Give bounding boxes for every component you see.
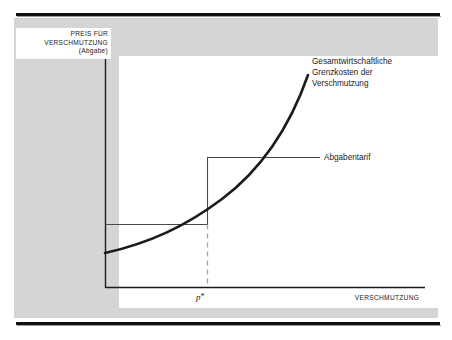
figure-page: PREIS FÜR VERSCHMUTZUNG (Abgabe) VERSCHM… — [0, 0, 452, 340]
y-axis-label-line-2: VERSCHMUTZUNG — [20, 39, 108, 48]
curve-annotation-line-1: Gesamtwirtschaftliche — [312, 56, 392, 67]
curve-annotation-line-2: Grenzkosten der — [312, 67, 392, 78]
x-tick-label-pstar: p* — [196, 292, 205, 302]
y-axis-label-line-3: (Abgabe) — [20, 47, 108, 56]
x-axis-label: VERSCHMUTZUNG — [340, 291, 432, 305]
curve-annotation-line-3: Verschmutzung — [312, 78, 392, 89]
marginal-cost-curve — [105, 75, 308, 253]
y-axis-label-line-1: PREIS FÜR — [20, 30, 108, 39]
step-annotation: Abgabentarif — [324, 152, 370, 163]
step-function-abgabentarif — [106, 158, 319, 225]
x-tick-label-pstar-superscript: * — [201, 292, 205, 301]
curve-annotation: Gesamtwirtschaftliche Grenzkosten der Ve… — [312, 56, 392, 90]
y-axis-label: PREIS FÜR VERSCHMUTZUNG (Abgabe) — [16, 28, 111, 59]
x-tick-label-pstar-text: p — [196, 292, 201, 302]
bottom-rule-shadow — [17, 325, 441, 326]
